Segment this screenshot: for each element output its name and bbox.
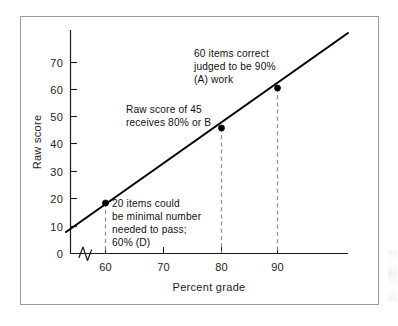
y-tick-label-40: 40: [50, 138, 63, 150]
y-tick-label-20: 20: [50, 193, 63, 205]
y-tick-label-30: 30: [50, 166, 63, 178]
y-tick-label-50: 50: [50, 111, 63, 123]
annotation-60-line-3: needed to pass;: [112, 224, 187, 235]
y-tick-labels: 70 60 50 40 30 20 10 0: [50, 57, 63, 260]
annotation-60-line-1: 20 items could: [112, 198, 180, 209]
figure-container: 70 60 50 40 30 20 10 0 60 70 80 90 Perce…: [0, 0, 398, 326]
annotation-80-line-1: Raw score of 45: [126, 104, 202, 115]
data-point-90[interactable]: [274, 85, 280, 91]
chart-svg: 70 60 50 40 30 20 10 0 60 70 80 90 Perce…: [0, 0, 398, 326]
annotation-60-line-4: 60% (D): [112, 237, 150, 248]
annotation-60: 20 items could be minimal number needed …: [112, 198, 202, 248]
x-axis-break-symbol: [79, 247, 92, 261]
annotation-90-line-1: 60 items correct: [194, 48, 269, 59]
y-axis-title: Raw score: [31, 115, 43, 170]
annotation-90-line-2: judged to be 90%: [193, 61, 276, 72]
annotation-90: 60 items correct judged to be 90% (A) wo…: [193, 48, 276, 85]
data-point-80[interactable]: [218, 125, 224, 131]
scan-edge-artifact: [388, 250, 397, 302]
x-tick-labels: 60 70 80 90: [99, 261, 284, 273]
annotation-80-line-2: receives 80% or B: [126, 117, 211, 128]
y-tick-label-10: 10: [50, 221, 63, 233]
x-tick-label-60: 60: [99, 261, 112, 273]
annotation-80: Raw score of 45 receives 80% or B: [126, 104, 211, 128]
x-tick-label-80: 80: [215, 261, 228, 273]
x-tick-label-90: 90: [271, 261, 284, 273]
x-tick-label-70: 70: [157, 261, 170, 273]
y-tick-label-70: 70: [50, 57, 63, 69]
annotation-60-line-2: be minimal number: [112, 211, 202, 222]
data-point-60[interactable]: [102, 200, 108, 206]
annotation-90-line-3: (A) work: [194, 74, 234, 85]
y-axis-ticks: [71, 63, 78, 227]
y-tick-label-0: 0: [57, 248, 63, 260]
x-axis-title: Percent grade: [173, 281, 246, 293]
y-tick-label-60: 60: [50, 84, 63, 96]
